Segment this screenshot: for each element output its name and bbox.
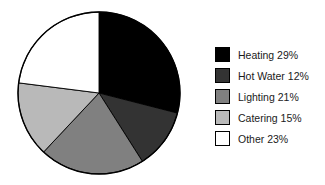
legend-item-label: Heating 29% <box>238 49 298 61</box>
legend-item: Heating 29% <box>215 44 325 65</box>
legend-swatch-icon <box>215 47 230 62</box>
pie-chart-graphic <box>0 0 200 185</box>
legend-item: Other 23% <box>215 128 325 149</box>
legend-item-label: Hot Water 12% <box>238 70 309 82</box>
legend-item-label: Other 23% <box>238 133 288 145</box>
pie-slice <box>19 12 99 93</box>
legend-item-label: Catering 15% <box>238 112 302 124</box>
legend-swatch-icon <box>215 89 230 104</box>
chart-legend: Heating 29%Hot Water 12%Lighting 21%Cate… <box>215 44 325 149</box>
pie-slice-group <box>18 12 180 174</box>
legend-item-label: Lighting 21% <box>238 91 299 103</box>
legend-item: Lighting 21% <box>215 86 325 107</box>
legend-item: Catering 15% <box>215 107 325 128</box>
legend-swatch-icon <box>215 68 230 83</box>
pie-chart-figure: Heating 29%Hot Water 12%Lighting 21%Cate… <box>0 0 325 185</box>
legend-item: Hot Water 12% <box>215 65 325 86</box>
legend-swatch-icon <box>215 131 230 146</box>
legend-swatch-icon <box>215 110 230 125</box>
